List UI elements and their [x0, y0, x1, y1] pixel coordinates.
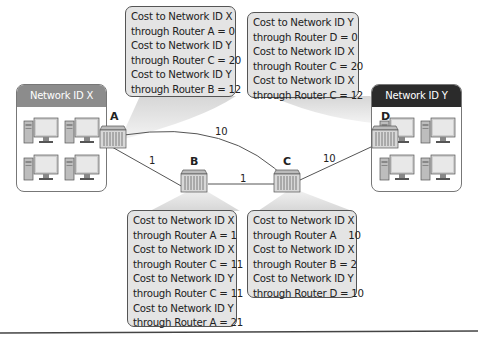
table-line: Cost to Network ID Y: [253, 16, 354, 31]
table-line: through Router C = 11: [133, 287, 232, 302]
table-line: through Router C = 20: [253, 60, 354, 75]
routing-table-b: Cost to Network ID X through Router A = …: [127, 210, 237, 327]
callout-tail-b: [150, 186, 240, 211]
link-cost-a-b: 1: [149, 155, 155, 166]
table-line: through Router A = 0: [131, 25, 231, 40]
table-line: Cost to Network ID X: [131, 10, 231, 25]
network-y-box: Network ID Y: [371, 84, 462, 192]
network-y-header: Network ID Y: [372, 85, 461, 107]
table-line: Cost to Network ID X: [253, 214, 352, 229]
router-c-label: C: [283, 155, 291, 168]
table-line: Cost to Network ID Y: [133, 272, 232, 287]
table-line: through Router A = 21: [133, 316, 232, 331]
routing-table-d: Cost to Network ID Y through Router D = …: [247, 12, 359, 98]
router-b-label: B: [190, 155, 198, 168]
table-line: through Router C = 12: [253, 89, 354, 104]
table-line: Cost to Network ID X: [253, 74, 354, 89]
table-line: through Router C = 20: [131, 54, 231, 69]
table-line: Cost to Network ID X: [253, 243, 352, 258]
table-line: Cost to Network ID Y: [131, 39, 231, 54]
network-x-header: Network ID X: [17, 85, 106, 107]
table-line: through Router D = 0: [253, 31, 354, 46]
link-cost-a-c: 10: [215, 126, 228, 137]
router-a-label: A: [110, 110, 119, 123]
table-line: Cost to Network ID X: [133, 214, 232, 229]
callout-tail-c: [258, 188, 352, 211]
network-x-box: Network ID X: [16, 84, 107, 192]
routing-table-a: Cost to Network ID X through Router A = …: [125, 6, 236, 97]
table-line: through Router D = 10: [253, 287, 352, 302]
table-line: through Router B = 12: [131, 83, 231, 98]
table-line: Cost to Network ID Y: [131, 68, 231, 83]
table-line: Cost to Network ID Y: [253, 272, 352, 287]
link-cost-c-d: 10: [323, 153, 336, 164]
routing-table-c: Cost to Network ID X through Router A 10…: [247, 210, 357, 298]
table-line: Cost to Network ID X: [253, 45, 354, 60]
link-a-b: [112, 147, 183, 187]
table-line: through Router A = 1: [133, 229, 232, 244]
table-line: through Router A 10: [253, 229, 352, 244]
table-line: through Router C = 11: [133, 258, 232, 273]
table-line: through Router B = 2: [253, 258, 352, 273]
router-d-label: D: [381, 110, 390, 123]
link-cost-b-c: 1: [240, 173, 246, 184]
table-line: Cost to Network ID X: [133, 243, 232, 258]
bottom-rule: [0, 331, 478, 333]
table-line: Cost to Network ID Y: [133, 302, 232, 317]
